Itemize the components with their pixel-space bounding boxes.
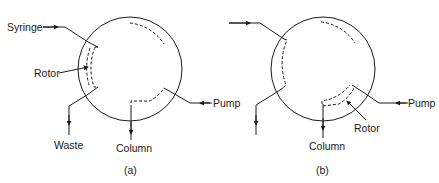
column-label-b: Column: [309, 140, 345, 152]
rotor-label-a: Rotor: [34, 67, 60, 79]
injection-valve-diagram: Syringe Rotor Waste Column Pump (a): [0, 0, 439, 183]
input-line-b: [229, 23, 284, 39]
valve-body-a: [78, 17, 182, 121]
panel-a: Syringe Rotor Waste Column Pump (a): [7, 17, 241, 176]
caption-a: (a): [124, 164, 137, 176]
rotor-channel-a-inner: [87, 48, 90, 85]
waste-label-a: Waste: [54, 139, 84, 151]
caption-b: (b): [316, 164, 329, 176]
rotor-channel-a-outer: [91, 47, 98, 87]
waste-line-a: [69, 87, 98, 135]
pump-label-b: Pump: [408, 97, 436, 109]
inactive-channel-b: [321, 22, 355, 43]
rotor-label-b: Rotor: [354, 122, 380, 134]
rotor-pointer-b: [347, 101, 366, 120]
pump-line-b: [352, 85, 408, 103]
column-pump-channel-a: [131, 88, 164, 108]
rotor-channel-b-outer: [322, 85, 350, 104]
column-label-a: Column: [116, 142, 152, 154]
syringe-label-a: Syringe: [7, 21, 43, 33]
loop-channel-b: [282, 39, 287, 88]
waste-line-b: [256, 88, 283, 135]
rotor-pointer-a: [59, 67, 88, 73]
pump-label-a: Pump: [213, 97, 241, 109]
panel-b: Column Pump Rotor (b): [229, 17, 436, 176]
syringe-line-a: [43, 27, 98, 47]
